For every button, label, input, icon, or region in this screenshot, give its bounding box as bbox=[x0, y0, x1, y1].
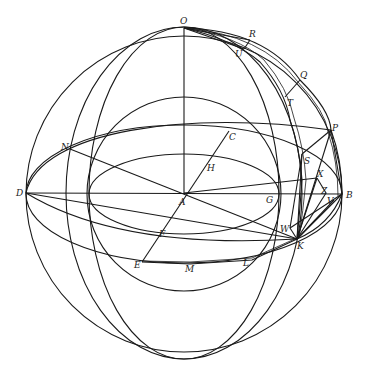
point-label-P: P bbox=[331, 123, 339, 133]
point-label-K: K bbox=[296, 241, 305, 251]
point-label-Z: Z bbox=[320, 186, 328, 196]
point-label-H: H bbox=[206, 163, 215, 173]
segment-QT bbox=[285, 80, 300, 97]
arc-OUTSK bbox=[184, 28, 302, 239]
point-label-S: S bbox=[304, 156, 310, 166]
point-label-B: B bbox=[345, 190, 353, 200]
point-label-N: N bbox=[60, 142, 70, 152]
point-label-Q: Q bbox=[300, 70, 308, 80]
point-label-A: A bbox=[178, 197, 186, 207]
point-label-T: T bbox=[287, 98, 294, 108]
segment-PS bbox=[302, 130, 331, 154]
point-label-X: X bbox=[316, 169, 324, 179]
point-label-O: O bbox=[180, 16, 188, 26]
point-label-R: R bbox=[248, 29, 256, 39]
point-label-M: M bbox=[184, 264, 195, 274]
point-label-E: E bbox=[133, 260, 141, 270]
point-label-C: C bbox=[229, 132, 236, 142]
point-label-G: G bbox=[266, 195, 273, 205]
point-label-U: U bbox=[235, 49, 243, 59]
tilted-great-circle bbox=[26, 123, 331, 193]
segment-PB bbox=[331, 130, 342, 194]
point-label-W: W bbox=[280, 224, 290, 234]
arc-OUTSK-2 bbox=[184, 28, 306, 238]
point-label-F: F bbox=[158, 229, 166, 239]
sphere-diagram: ORUQTPCNSHXDAZGBVFWKELM bbox=[0, 0, 368, 380]
line-CE bbox=[142, 131, 229, 262]
point-label-L: L bbox=[242, 258, 249, 268]
point-label-D: D bbox=[15, 188, 23, 198]
